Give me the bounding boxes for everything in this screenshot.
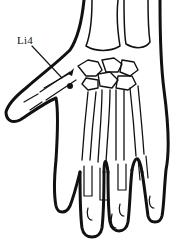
arrow-head-icon <box>68 68 74 76</box>
hand-skeleton-illustration: Li4 <box>0 0 186 241</box>
acupoint-label: Li4 <box>17 34 33 46</box>
acupoint-marker-icon <box>67 83 73 89</box>
